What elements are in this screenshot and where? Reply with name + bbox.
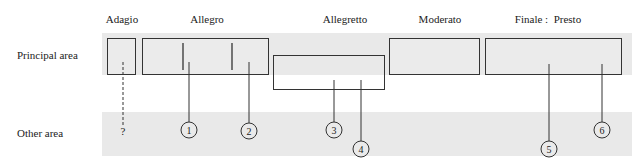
marker-2-label: 2 (247, 126, 252, 137)
sonata-area-diagram: Adagio Allegro Allegretto Moderato Final… (0, 0, 632, 166)
adagio-box (108, 39, 136, 75)
column-label-finale-presto: Finale : Presto (515, 13, 582, 25)
finale-presto-box (486, 39, 622, 75)
marker-4: 4 (353, 141, 369, 157)
marker-1-label: 1 (187, 125, 192, 136)
marker-5-label: 5 (547, 144, 552, 155)
marker-5: 5 (541, 141, 557, 157)
diagram-canvas: Adagio Allegro Allegretto Moderato Final… (0, 0, 632, 166)
marker-2: 2 (241, 123, 257, 139)
marker-6-label: 6 (600, 125, 605, 136)
marker-6: 6 (594, 122, 610, 138)
allegro-box (143, 39, 269, 75)
column-label-adagio: Adagio (106, 13, 139, 25)
marker-3: 3 (326, 122, 342, 138)
moderato-box (390, 39, 480, 75)
marker-4-label: 4 (359, 144, 364, 155)
unknown-marker: ? (121, 125, 126, 137)
column-label-moderato: Moderato (419, 13, 462, 25)
column-label-allegretto: Allegretto (323, 13, 368, 25)
marker-3-label: 3 (332, 125, 337, 136)
row-label-principal-area: Principal area (17, 49, 78, 61)
column-label-allegro: Allegro (190, 13, 224, 25)
marker-1: 1 (181, 122, 197, 138)
row-label-other-area: Other area (17, 127, 63, 139)
